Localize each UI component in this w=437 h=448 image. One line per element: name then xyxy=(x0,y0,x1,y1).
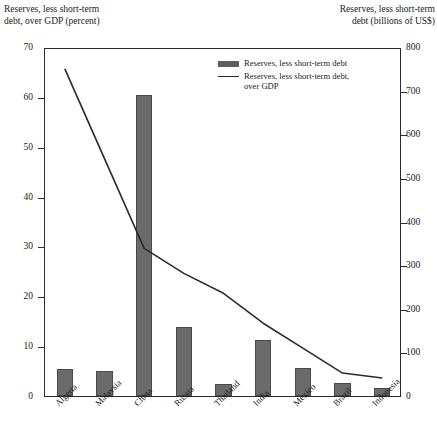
right-tick-mark xyxy=(401,310,407,311)
left-tick-mark xyxy=(38,98,44,99)
left-tick-label: 50 xyxy=(0,142,33,152)
right-tick-label: 200 xyxy=(406,304,437,314)
legend-item-line: Reserves, less short-term debt, over GDP xyxy=(218,71,349,92)
left-tick-label: 0 xyxy=(0,391,33,401)
right-tick-label: 700 xyxy=(406,86,437,96)
right-tick-mark xyxy=(401,223,407,224)
right-tick-label: 0 xyxy=(406,391,437,401)
plot-inner xyxy=(45,49,400,396)
chart-legend: Reserves, less short-term debt Reserves,… xyxy=(218,58,349,94)
right-tick-label: 300 xyxy=(406,260,437,270)
right-axis-title: Reserves, less short-term debt (billions… xyxy=(245,4,435,27)
left-tick-label: 10 xyxy=(0,341,33,351)
right-tick-label: 100 xyxy=(406,347,437,357)
left-tick-mark xyxy=(38,347,44,348)
right-tick-label: 400 xyxy=(406,217,437,227)
right-tick-mark xyxy=(401,179,407,180)
legend-line-swatch-icon xyxy=(218,76,239,77)
legend-item-label: Reserves, less short-term debt, over GDP xyxy=(244,71,349,92)
right-tick-label: 500 xyxy=(406,173,437,183)
right-tick-mark xyxy=(401,353,407,354)
right-tick-mark xyxy=(401,266,407,267)
line-series-layer xyxy=(45,49,402,398)
legend-item-bar: Reserves, less short-term debt xyxy=(218,58,349,69)
left-tick-mark xyxy=(38,148,44,149)
left-tick-label: 40 xyxy=(0,192,33,202)
left-axis-title: Reserves, less short-term debt, over GDP… xyxy=(4,4,184,27)
right-tick-label: 600 xyxy=(406,129,437,139)
left-tick-label: 70 xyxy=(0,42,33,52)
right-tick-mark xyxy=(401,135,407,136)
right-tick-label: 800 xyxy=(406,42,437,52)
left-tick-mark xyxy=(38,247,44,248)
right-tick-mark xyxy=(401,92,407,93)
line-path xyxy=(65,69,382,378)
chart-figure: Reserves, less short-term debt, over GDP… xyxy=(0,0,437,448)
left-tick-mark xyxy=(38,198,44,199)
left-tick-mark xyxy=(38,297,44,298)
legend-item-label: Reserves, less short-term debt xyxy=(244,58,347,69)
plot-area xyxy=(44,48,401,397)
left-tick-label: 20 xyxy=(0,291,33,301)
left-tick-label: 60 xyxy=(0,92,33,102)
legend-bar-swatch-icon xyxy=(218,61,239,67)
left-tick-label: 30 xyxy=(0,241,33,251)
